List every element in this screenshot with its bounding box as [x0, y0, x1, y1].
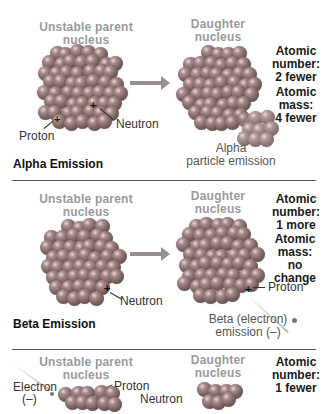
- beta-daughter-title: Daughter nucleus: [190, 190, 246, 216]
- beta-section-title: Beta Emission: [13, 317, 96, 331]
- electron-dot-icon: [50, 392, 54, 396]
- proton-plus-icon: +: [54, 114, 60, 124]
- beta-fact-atomic-number: Atomic number: 1 more: [272, 193, 320, 232]
- alpha-fact-atomic-mass: Atomic mass: 4 fewer: [272, 86, 320, 125]
- nucleon-sphere: [107, 397, 122, 412]
- fact-value: 1 more: [272, 219, 320, 232]
- emission-label-line2: particle emission: [176, 155, 286, 168]
- third-parent-nucleus: [58, 384, 118, 414]
- third-daughter-title: Daughter nucleus: [190, 354, 246, 380]
- third-daughter-nucleus: [194, 382, 240, 412]
- fact-value: 4 fewer: [272, 112, 320, 125]
- beta-neutron-label: Neutron: [120, 295, 163, 308]
- beta-daughter-title-line2: nucleus: [190, 203, 246, 216]
- third-daughter-title-line2: nucleus: [190, 367, 246, 380]
- third-neutron-label: Neutron: [140, 393, 183, 406]
- beta-proton-label: Proton: [268, 281, 303, 294]
- neutron-marker-icon: +: [90, 100, 96, 110]
- alpha-parent-title: Unstable parent nucleus: [38, 21, 134, 47]
- third-fact-atomic-number: Atomic number: 1 fewer: [272, 356, 320, 395]
- third-electron-sign: (–): [22, 393, 37, 406]
- section-divider: [12, 349, 316, 350]
- section-divider: [12, 180, 316, 181]
- beta-parent-nucleus: [38, 218, 124, 304]
- beta-emission-label: Beta (electron) emission (–): [200, 313, 296, 339]
- alpha-proton-label: Proton: [19, 130, 54, 143]
- beta-proton-plus-icon: +: [245, 284, 251, 294]
- alpha-emission-label: Alpha particle emission: [176, 142, 286, 168]
- nucleon-sphere: [225, 287, 240, 302]
- beta-parent-title-line2: nucleus: [38, 206, 134, 219]
- beta-fact-atomic-mass: Atomic mass: no change: [266, 233, 324, 285]
- beta-proton-leader-line: [253, 287, 265, 288]
- alpha-fact-atomic-number: Atomic number: 2 fewer: [272, 45, 320, 84]
- alpha-section-title: Alpha Emission: [13, 157, 103, 171]
- nucleon-sphere: [89, 291, 104, 306]
- emission-label-line2: emission (–): [200, 326, 296, 339]
- alpha-daughter-title: Daughter nucleus: [190, 18, 246, 44]
- nucleon-sphere: [221, 392, 236, 407]
- nucleon-sphere: [109, 269, 124, 284]
- fact-value: 2 fewer: [272, 71, 320, 84]
- fact-value: 1 fewer: [272, 382, 320, 395]
- alpha-arrow-icon: [130, 81, 162, 85]
- beta-arrow-icon: [130, 252, 162, 256]
- alpha-daughter-title-line2: nucleus: [190, 31, 246, 44]
- alpha-neutron-label: Neutron: [116, 118, 159, 131]
- beta-parent-title: Unstable parent nucleus: [38, 193, 134, 219]
